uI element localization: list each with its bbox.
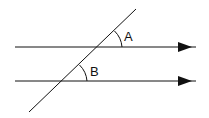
angle-a-label: A xyxy=(124,29,133,44)
transversal-line xyxy=(29,9,136,112)
bottom-line-arrow-icon xyxy=(178,76,192,86)
angle-b-label: B xyxy=(90,64,99,79)
parallel-lines-diagram: A B xyxy=(0,0,209,118)
angle-a-arc xyxy=(115,31,123,47)
top-line-arrow-icon xyxy=(178,42,192,52)
angle-b-arc xyxy=(80,65,88,81)
